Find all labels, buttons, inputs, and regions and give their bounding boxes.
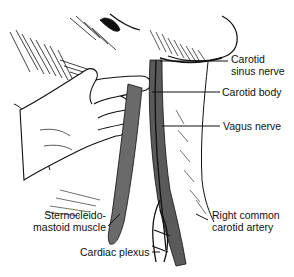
label-vagus-nerve: Vagus nerve [223, 120, 281, 132]
label-carotid-sinus-nerve-line2: sinus nerve [231, 65, 285, 77]
label-right-common-carotid-line1: Right common [212, 209, 280, 221]
face-hatching [10, 16, 120, 82]
label-sternocleidomastoid-muscle: Sternocleido- mastoid muscle [32, 209, 106, 233]
neck-anatomy-illustration [0, 0, 294, 277]
label-carotid-sinus-nerve: Carotid sinus nerve [231, 53, 285, 77]
label-carotid-sinus-nerve-line1: Carotid [231, 53, 285, 65]
jaw-outline [110, 14, 237, 61]
label-right-common-carotid-artery: Right common carotid artery [212, 209, 280, 233]
label-cardiac-plexus: Cardiac plexus [80, 246, 149, 258]
label-right-common-carotid-line2: carotid artery [212, 221, 280, 233]
label-sternocleidomastoid-line1: Sternocleido- [32, 209, 106, 221]
chin-hatching [150, 30, 222, 63]
label-sternocleidomastoid-line2: mastoid muscle [32, 221, 106, 233]
label-carotid-body: Carotid body [222, 86, 282, 98]
